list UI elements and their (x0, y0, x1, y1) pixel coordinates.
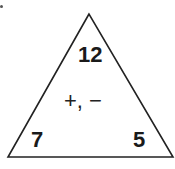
bottom-right-number: 5 (133, 129, 145, 151)
bottom-left-number: 7 (31, 129, 43, 151)
operations-label: +, − (64, 90, 102, 112)
fact-family-diagram: 12 +, − 7 5 (0, 0, 175, 169)
triangle-shape (0, 0, 175, 169)
top-number: 12 (78, 44, 102, 66)
